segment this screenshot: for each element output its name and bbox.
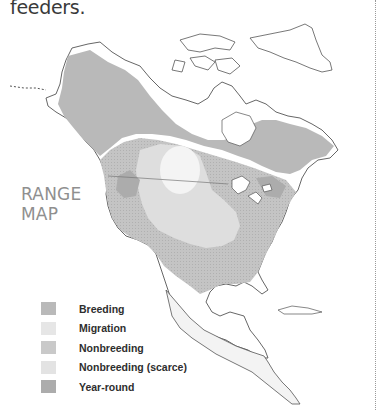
nonbreeding-scarce-swatch — [41, 361, 56, 374]
migration-swatch — [41, 322, 56, 335]
greenland — [250, 24, 332, 72]
legend-label: Year-round — [79, 381, 134, 393]
legend-label: Breeding — [79, 303, 125, 315]
legend-item-nonbreeding-scarce: Nonbreeding (scarce) — [41, 358, 187, 378]
legend-item-nonbreeding: Nonbreeding — [41, 338, 187, 358]
legend-label: Nonbreeding — [79, 342, 144, 354]
legend-item-breeding: Breeding — [41, 299, 187, 319]
scarce-region — [160, 146, 200, 194]
breeding-swatch — [41, 302, 56, 315]
cuba — [278, 306, 322, 314]
range-map-title: RANGE MAP — [21, 184, 81, 224]
aleutians — [10, 86, 46, 90]
map-legend: Breeding Migration Nonbreeding Nonbreedi… — [41, 299, 187, 397]
legend-item-migration: Migration — [41, 319, 187, 339]
dotted-divider — [375, 0, 376, 410]
range-map-title-line2: MAP — [21, 204, 81, 224]
legend-label: Nonbreeding (scarce) — [79, 361, 187, 373]
legend-label: Migration — [79, 322, 126, 334]
nonbreeding-swatch — [41, 341, 56, 354]
legend-item-year-round: Year-round — [41, 377, 187, 397]
year-round-swatch — [41, 380, 56, 393]
arctic-islands — [172, 34, 240, 74]
range-map-title-line1: RANGE — [21, 184, 81, 204]
